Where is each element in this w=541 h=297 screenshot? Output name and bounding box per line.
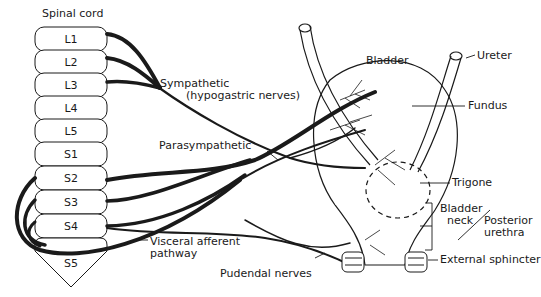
segment-label-l4: L4 bbox=[64, 102, 77, 115]
bladder-outline bbox=[314, 61, 458, 265]
bladder-label: Bladder bbox=[366, 55, 409, 67]
ureter-label: Ureter bbox=[477, 50, 512, 62]
segment-label-s2: S2 bbox=[64, 172, 78, 185]
bladder-innervation-diagram: L1 L2 L3 L4 L5 S1 S2 S3 S4 S5 Spinal cor… bbox=[0, 0, 541, 297]
ureters bbox=[299, 24, 462, 172]
segment-label-l3: L3 bbox=[64, 79, 77, 92]
hypogastric-nerves-label: (hypogastric nerves) bbox=[186, 90, 300, 102]
segment-label-s5: S5 bbox=[64, 257, 78, 270]
segment-label-s4: S4 bbox=[64, 220, 78, 233]
trigone-region bbox=[366, 162, 430, 218]
bladder bbox=[314, 61, 458, 265]
segment-label-l1: L1 bbox=[64, 33, 77, 46]
spinal-cord-label: Spinal cord bbox=[42, 8, 103, 20]
ureter-opening bbox=[450, 52, 462, 60]
parasympathetic-label: Parasympathetic bbox=[159, 140, 251, 152]
fundus-label: Fundus bbox=[468, 100, 507, 112]
trigone-label: Trigone bbox=[452, 177, 492, 189]
segment-label-s1: S1 bbox=[64, 148, 78, 161]
segment-label-l2: L2 bbox=[64, 56, 77, 69]
pudendal-nerves-label: Pudendal nerves bbox=[220, 268, 312, 280]
segment-label-s3: S3 bbox=[64, 196, 78, 209]
visceral-pathway-label: pathway bbox=[150, 248, 197, 260]
posterior-urethra-label-line2: urethra bbox=[484, 227, 525, 239]
segment-label-l5: L5 bbox=[64, 125, 77, 138]
external-sphincter-label: External sphincter bbox=[440, 254, 541, 266]
bladder-neck-label-line2: neck bbox=[447, 215, 473, 227]
